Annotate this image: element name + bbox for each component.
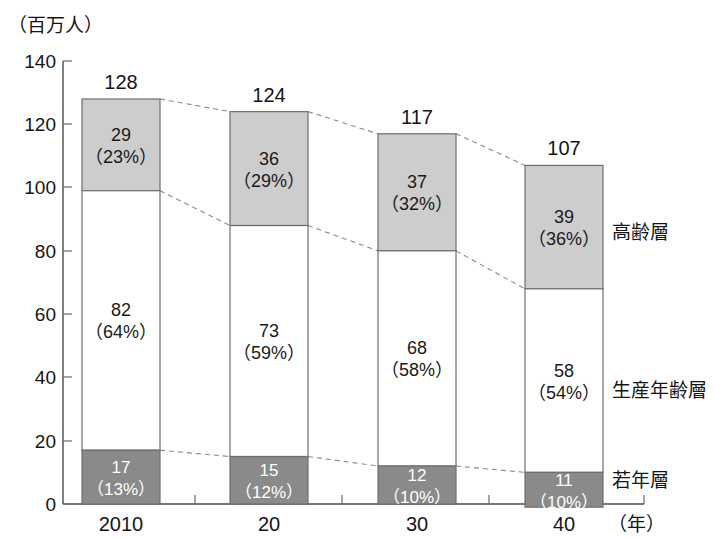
bar-column: 39（36%）58（54%）11（10%） xyxy=(525,165,603,511)
segment-percent-label: （54%） xyxy=(528,383,600,403)
population-stacked-bar-chart: （百万人） 140 120 100 80 60 40 20 0 xyxy=(0,0,715,538)
bar-column: 29（23%）82（64%）17（13%） xyxy=(82,99,160,504)
legend-item-youth: 若年層 xyxy=(612,470,669,491)
segment-percent-label: （12%） xyxy=(235,483,303,502)
y-tick-label-140: 140 xyxy=(24,51,56,72)
segment-percent-label: （10%） xyxy=(383,488,451,507)
segment-value-label: 11 xyxy=(555,471,573,490)
connector-line xyxy=(160,191,230,226)
x-axis-unit-label: （年） xyxy=(608,514,665,535)
x-tick-label-30: 30 xyxy=(406,513,428,535)
y-tick-label-0: 0 xyxy=(45,494,56,515)
chart-legend: 高齢層 生産年齢層 若年層 xyxy=(612,222,707,491)
segment-value-label: 12 xyxy=(408,466,427,485)
connector-line xyxy=(308,457,378,466)
connector-line xyxy=(456,466,525,472)
segment-percent-label: （64%） xyxy=(85,322,157,342)
connector-line xyxy=(456,134,525,166)
connector-line xyxy=(308,112,378,134)
segment-value-label: 68 xyxy=(407,338,427,358)
segment-value-label: 73 xyxy=(259,321,279,341)
y-tick-label-20: 20 xyxy=(35,431,56,452)
segment-value-label: 29 xyxy=(111,125,131,145)
bar-total-label: 124 xyxy=(252,84,285,106)
segment-percent-label: （13%） xyxy=(87,480,155,499)
segment-value-label: 39 xyxy=(554,207,574,227)
x-tick-label-40: 40 xyxy=(553,513,575,535)
x-tick-label-2010: 2010 xyxy=(99,513,144,535)
segment-value-label: 37 xyxy=(407,172,427,192)
segment-percent-label: （10%） xyxy=(530,493,598,512)
segment-value-label: 58 xyxy=(554,361,574,381)
y-tick-label-60: 60 xyxy=(35,304,56,325)
segment-percent-label: （23%） xyxy=(85,147,157,167)
segment-percent-label: （58%） xyxy=(381,360,453,380)
y-tick-label-100: 100 xyxy=(24,177,56,198)
segment-percent-label: （59%） xyxy=(233,343,305,363)
segment-percent-label: （29%） xyxy=(233,171,305,191)
segment-value-label: 82 xyxy=(111,300,131,320)
bar-total-label: 128 xyxy=(104,71,137,93)
legend-item-working-age: 生産年齢層 xyxy=(612,380,707,401)
y-axis-unit-label: （百万人） xyxy=(8,15,103,36)
connector-line xyxy=(456,251,525,289)
x-axis-tick-labels: 2010203040 xyxy=(99,513,575,535)
segment-percent-label: （32%） xyxy=(381,194,453,214)
bar-segment-高齢層 xyxy=(525,165,603,288)
segment-value-label: 15 xyxy=(260,461,279,480)
y-axis-tick-labels: 140 120 100 80 60 40 20 0 xyxy=(24,51,56,515)
connector-line xyxy=(308,226,378,251)
segment-percent-label: （36%） xyxy=(528,229,600,249)
bar-column: 36（29%）73（59%）15（12%） xyxy=(230,112,308,504)
y-tick-label-120: 120 xyxy=(24,114,56,135)
bar-column: 37（32%）68（58%）12（10%） xyxy=(378,134,456,507)
connector-line xyxy=(160,99,230,112)
segment-connector-lines xyxy=(160,99,525,472)
y-tick-label-40: 40 xyxy=(35,367,56,388)
connector-line xyxy=(160,450,230,456)
legend-item-elderly: 高齢層 xyxy=(612,222,669,243)
bar-total-label: 117 xyxy=(401,106,433,128)
x-tick-label-20: 20 xyxy=(258,513,280,535)
bar-group: 29（23%）82（64%）17（13%）12836（29%）73（59%）15… xyxy=(82,71,603,512)
segment-value-label: 36 xyxy=(259,149,279,169)
y-axis-ticks xyxy=(63,61,72,441)
segment-value-label: 17 xyxy=(112,458,131,477)
bar-total-label: 107 xyxy=(547,137,580,159)
y-tick-label-80: 80 xyxy=(35,241,56,262)
